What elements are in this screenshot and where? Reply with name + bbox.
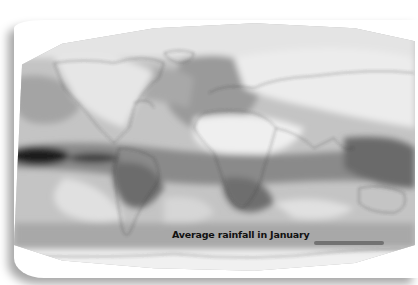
map-caption: Average rainfall in January	[172, 229, 309, 240]
